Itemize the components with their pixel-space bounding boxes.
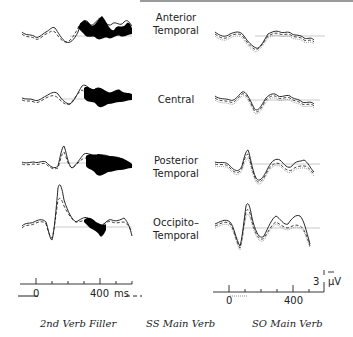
legend-item-ss: SS Main Verb [146, 318, 215, 329]
left-axis-400: 400 [90, 288, 109, 299]
label-line: Temporal [131, 229, 221, 242]
left-axis-unit: ms [114, 288, 129, 299]
row-label-central: Central [131, 93, 221, 106]
legend-item-so: SO Main Verb [252, 318, 323, 329]
scale-bar [324, 270, 334, 275]
waveform-left-posterior-temporal [22, 146, 132, 176]
waveform-left-central [22, 85, 132, 107]
left-axis-zero: 0 [33, 288, 39, 299]
waveform-left-anterior-temporal [22, 16, 132, 43]
row-label-anterior-temporal: Anterior Temporal [131, 11, 221, 37]
label-line: Anterior [131, 11, 221, 24]
scale-unit: µV [328, 276, 341, 287]
legend-item-filler: 2nd Verb Filler [40, 318, 116, 329]
label-line: Temporal [131, 167, 221, 180]
waveform-right-posterior-temporal [215, 150, 320, 184]
waveform-right-anterior-temporal [215, 31, 325, 52]
scale-value: 3 [313, 276, 319, 287]
row-label-posterior-temporal: Posterior Temporal [131, 154, 221, 180]
x-axis-left [20, 278, 132, 284]
waveform-left-occipito-temporal [22, 185, 132, 240]
row-label-occipito-temporal: Occipito– Temporal [131, 216, 221, 242]
label-line: Central [131, 93, 221, 106]
waveform-right-central [215, 92, 320, 114]
right-axis-400: 400 [284, 295, 303, 306]
waveform-right-occipito-temporal [215, 204, 320, 250]
label-line: Posterior [131, 154, 221, 167]
label-line: Occipito– [131, 216, 221, 229]
label-line: Temporal [131, 24, 221, 37]
x-axis-right [213, 282, 324, 292]
right-axis-zero: 0 [226, 295, 232, 306]
